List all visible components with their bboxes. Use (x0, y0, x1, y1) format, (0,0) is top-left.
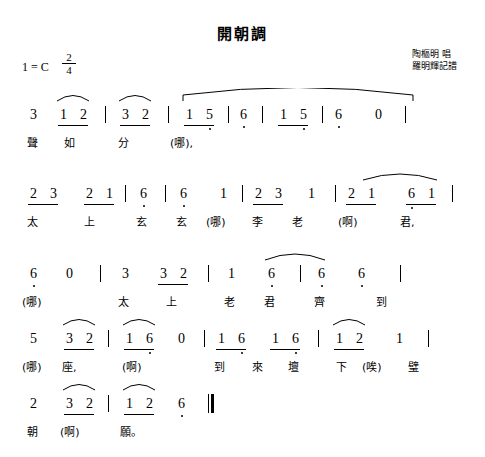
barline (165, 185, 166, 202)
lyric: 到 (376, 293, 387, 309)
octave-dot-below (181, 415, 183, 417)
credit-transcriber: 羅明輝記譜 (412, 60, 457, 72)
lyric: (哪) (22, 358, 42, 374)
note: 5 (300, 108, 307, 122)
lyric: 老 (224, 293, 235, 309)
lyric: (哪) (22, 293, 42, 309)
note: 1 (336, 332, 343, 346)
page-title: 開朝調 (0, 22, 485, 43)
note: 6 (240, 108, 247, 122)
note: 1 (396, 332, 403, 346)
credit-singer: 陶樞明 唱 (412, 48, 457, 60)
music-system-5: 2 3 2 1 2 6 朝 (啊) 願。 (0, 385, 485, 447)
note: 5 (206, 108, 213, 122)
slur-icon (332, 316, 366, 326)
lyric: 願。 (120, 423, 142, 439)
slur-icon (118, 92, 152, 102)
beam-line (58, 125, 88, 126)
note: 6 (292, 332, 299, 346)
lyric: (哪) (206, 213, 226, 229)
slur-icon (56, 92, 90, 102)
credits-block: 陶樞明 唱 羅明輝記譜 (412, 48, 457, 72)
lyric: (唉) (362, 358, 382, 374)
time-signature: 2 4 (62, 52, 76, 75)
barline (208, 265, 209, 282)
beam-line (406, 204, 436, 205)
note: 3 (275, 187, 282, 201)
note: 6 (238, 332, 245, 346)
note: 1 (220, 187, 227, 201)
octave-dot-below (338, 126, 340, 128)
note: 6 (335, 108, 342, 122)
barline (105, 106, 106, 123)
note: 3 (122, 267, 129, 281)
lyric: 壇 (288, 358, 299, 374)
barline (125, 185, 126, 202)
lyric: 玄 (136, 213, 147, 229)
octave-dot-below (243, 126, 245, 128)
note: 6 (140, 187, 147, 201)
beam-line (64, 414, 94, 415)
barline (228, 106, 229, 123)
octave-dot-below (33, 285, 35, 287)
octave-dot-below (271, 285, 273, 287)
meter-numerator: 2 (62, 52, 76, 64)
note: 5 (30, 332, 37, 346)
note: 0 (178, 332, 185, 346)
beam-line (270, 349, 300, 350)
note: 1 (126, 332, 133, 346)
note: 0 (66, 267, 73, 281)
note: 1 (280, 108, 287, 122)
note: 1 (308, 187, 315, 201)
lyric: 李 (252, 213, 263, 229)
lyric: 聲 (27, 134, 38, 150)
note: 1 (126, 397, 133, 411)
beam-line (346, 204, 376, 205)
slur-icon (362, 171, 438, 181)
note: 3 (160, 267, 167, 281)
barline (204, 330, 205, 347)
note: 6 (30, 267, 37, 281)
note: 6 (178, 397, 185, 411)
music-system-1: 3 1 2 3 2 1 5 6 1 5 6 0 聲 如 分 (哪), (0, 96, 485, 158)
slur-icon (264, 251, 326, 261)
lyric: 來 (252, 358, 263, 374)
octave-dot-below (303, 128, 305, 130)
note: 2 (255, 187, 262, 201)
lyric: 太 (27, 213, 38, 229)
barline (405, 106, 406, 123)
beam-line (84, 204, 114, 205)
octave-dot-below (321, 285, 323, 287)
note: 2 (348, 187, 355, 201)
note: 1 (228, 267, 235, 281)
note: 6 (408, 187, 415, 201)
beam-line (124, 349, 154, 350)
note: 3 (50, 187, 57, 201)
note: 2 (356, 332, 363, 346)
music-system-4: 5 3 2 1 6 0 1 6 1 6 1 2 1 (哪) 座, (啊) 到 來… (0, 320, 485, 382)
barline (168, 106, 169, 123)
lyric: 璧 (408, 358, 419, 374)
beam-line (158, 284, 188, 285)
barline (322, 106, 323, 123)
octave-dot-below (209, 128, 211, 130)
barline (100, 265, 101, 282)
note: 1 (428, 187, 435, 201)
lyric: (啊) (338, 213, 358, 229)
note: 2 (86, 187, 93, 201)
beam-line (124, 414, 154, 415)
note: 2 (180, 267, 187, 281)
octave-dot-below (143, 205, 145, 207)
lyric: 老 (292, 213, 303, 229)
slur-icon (182, 88, 414, 102)
note: 3 (122, 108, 129, 122)
music-system-2: 2 3 2 1 6 6 1 2 3 1 2 1 6 1 太 上 玄 玄 (哪) … (0, 175, 485, 237)
beam-line (216, 349, 246, 350)
lyric: (啊) (122, 358, 142, 374)
barline (262, 106, 263, 123)
octave-dot-below (149, 352, 151, 354)
note: 1 (106, 187, 113, 201)
beam-line (253, 204, 283, 205)
lyric: 分 (118, 134, 129, 150)
note: 6 (180, 187, 187, 201)
